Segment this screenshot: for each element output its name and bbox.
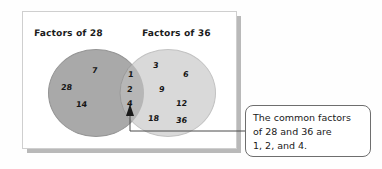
leader-arrowhead bbox=[126, 104, 134, 116]
callout-line-0: The common factors bbox=[253, 111, 364, 125]
callout-line-1: of 28 and 36 are bbox=[253, 125, 364, 139]
screenshot-root: Factors of 28 Factors of 36 7 28 14 1 2 … bbox=[0, 0, 382, 169]
callout-box: The common factors of 28 and 36 are 1, 2… bbox=[245, 105, 371, 157]
callout-line-2: 1, 2, and 4. bbox=[253, 139, 364, 153]
